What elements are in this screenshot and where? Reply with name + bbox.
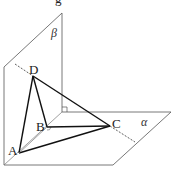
label-beta: β	[50, 26, 57, 40]
label-alpha: α	[141, 115, 148, 129]
top-partial-glyph: g	[55, 0, 62, 6]
label-b: B	[36, 119, 45, 134]
tetrahedron-edges	[19, 76, 110, 153]
right-angle-mark-planes	[62, 107, 67, 112]
edge-ac	[19, 126, 110, 153]
edge-ad	[19, 76, 33, 153]
label-d: D	[29, 62, 38, 77]
geometry-diagram: g β α D B C A	[0, 0, 171, 171]
label-c: C	[112, 116, 121, 131]
label-a: A	[8, 143, 18, 158]
edge-bc	[47, 126, 110, 127]
